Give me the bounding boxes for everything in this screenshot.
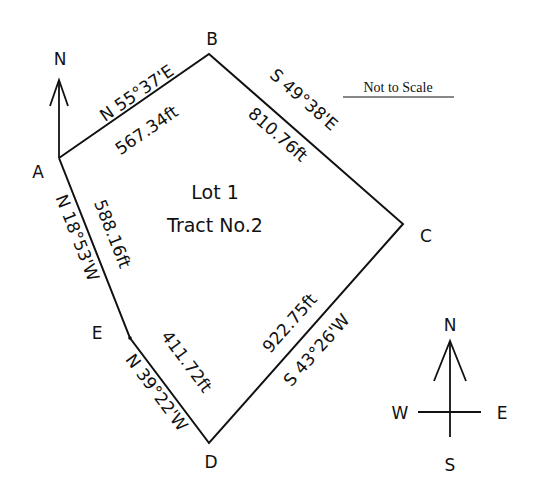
compass-rose-icon	[418, 341, 481, 437]
survey-plat: N A B C D E N 55°37'E 567.34ft S 49°38'E…	[0, 0, 534, 500]
vertex-label-e: E	[92, 323, 103, 343]
compass-east-label: E	[497, 403, 508, 423]
north-arrow-label: N	[54, 49, 67, 69]
vertex-label-c: C	[420, 226, 432, 246]
scale-note: Not to Scale	[363, 80, 432, 95]
vertex-label-a: A	[32, 162, 44, 182]
compass-north-label: N	[444, 315, 457, 335]
vertex-label-d: D	[204, 452, 217, 472]
compass-west-label: W	[392, 403, 409, 423]
north-arrow-icon	[50, 80, 68, 158]
vertex-label-b: B	[206, 29, 218, 49]
vertex-e-marker	[128, 336, 132, 340]
lot-title: Lot 1	[191, 181, 238, 203]
tract-title: Tract No.2	[166, 214, 263, 236]
compass-south-label: S	[445, 455, 456, 475]
